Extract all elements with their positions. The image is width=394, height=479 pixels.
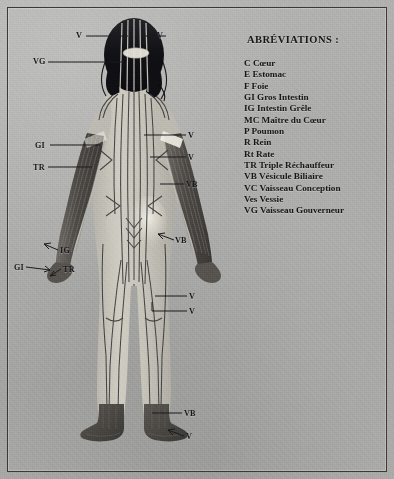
abbreviation-item: VG Vaisseau Gouverneur <box>244 205 384 216</box>
callout-vb-hip: VB <box>175 236 187 245</box>
callout-ig-hand: IG <box>60 246 70 255</box>
callout-gi-forearm: GI <box>35 141 45 150</box>
abbreviation-item: GI Gros Intestin <box>244 92 384 103</box>
callout-tr-forearm: TR <box>33 163 45 172</box>
abbreviation-item: C Cœur <box>244 58 384 69</box>
callout-tr-hand: TR <box>63 265 75 274</box>
abbreviation-item: TR Triple Réchauffeur <box>244 160 384 171</box>
abbreviation-item: P Poumon <box>244 126 384 137</box>
callout-v-thigh: V <box>189 292 195 301</box>
callout-v-head-left: V <box>76 31 82 40</box>
callout-v-shoulder: V <box>188 131 194 140</box>
callout-v-foot: V <box>186 432 192 441</box>
abbreviation-item: E Estomac <box>244 69 384 80</box>
callout-vg-head: VG <box>33 57 46 66</box>
abbreviation-item: IG Intestin Grêle <box>244 103 384 114</box>
callout-gi-hand: GI <box>14 263 24 272</box>
callout-vb-ankle: VB <box>184 409 196 418</box>
abbreviation-item: R Rein <box>244 137 384 148</box>
callout-v-knee: V <box>189 307 195 316</box>
callout-vb-arm: VB <box>186 180 198 189</box>
callout-v-head-right: V <box>157 31 163 40</box>
callout-v-upperback: V <box>188 153 194 162</box>
abbreviation-item: MC Maître du Cœur <box>244 115 384 126</box>
abbreviations-heading: ABRÉVIATIONS : <box>247 34 384 45</box>
abbreviations-panel: ABRÉVIATIONS : C Cœur E Estomac F Foie G… <box>244 34 384 217</box>
illustration-plate: V V VG GI TR V V VB VB IG GI TR V V VB V… <box>0 0 394 479</box>
abbreviation-item: VB Vésicule Biliaire <box>244 171 384 182</box>
abbreviation-item: Ves Vessie <box>244 194 384 205</box>
abbreviation-item: Rt Rate <box>244 149 384 160</box>
abbreviation-item: F Foie <box>244 81 384 92</box>
abbreviations-list: C Cœur E Estomac F Foie GI Gros Intestin… <box>244 58 384 217</box>
abbreviation-item: VC Vaisseau Conception <box>244 183 384 194</box>
